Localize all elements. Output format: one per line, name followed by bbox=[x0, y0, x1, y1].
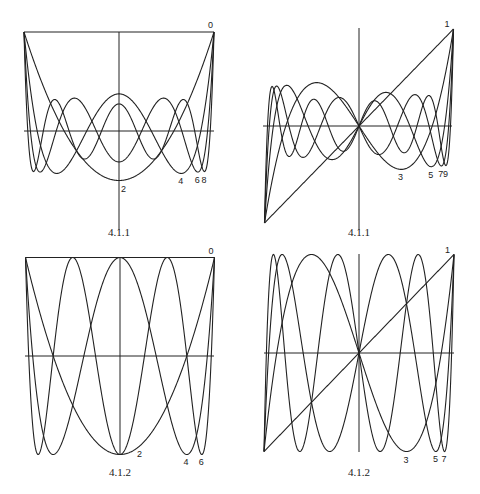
curve-label: 1 bbox=[445, 245, 450, 255]
curve-label: 4 bbox=[178, 176, 183, 186]
caption-bottom-right: 4.1.2 bbox=[348, 466, 370, 478]
curve-label: 0 bbox=[208, 20, 213, 30]
curve-label: 1 bbox=[445, 19, 450, 29]
curve-label: 2 bbox=[137, 449, 142, 459]
curve-label: 7 bbox=[442, 454, 447, 464]
curve-label: 6 bbox=[199, 457, 204, 467]
curve-label: 3 bbox=[404, 455, 409, 465]
curve-label: 6 bbox=[195, 175, 200, 185]
caption-bottom-left: 4.1.2 bbox=[109, 466, 131, 478]
curve-label: 5 bbox=[433, 454, 438, 464]
curve-label: 4 bbox=[184, 457, 189, 467]
curve-label: 3 bbox=[398, 172, 403, 182]
curve-label: 8 bbox=[202, 175, 207, 185]
curve-label: 0 bbox=[209, 246, 214, 256]
curve-label: 9 bbox=[443, 169, 448, 179]
caption-top-right: 4.1.1 bbox=[348, 226, 370, 238]
curve-label: 2 bbox=[121, 184, 126, 194]
curve-label: 5 bbox=[428, 170, 433, 180]
caption-top-left: 4.1.1 bbox=[108, 226, 130, 238]
polynomial-plots: 024681357902461357 bbox=[0, 0, 480, 494]
